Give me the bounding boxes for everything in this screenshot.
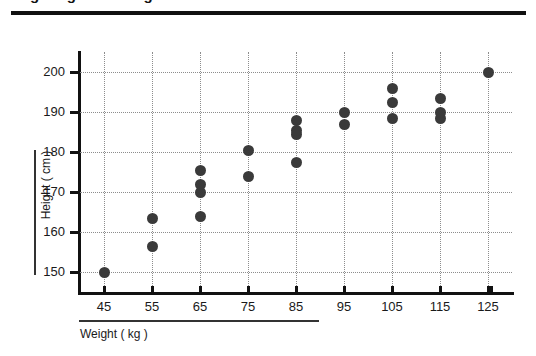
data-point	[147, 241, 158, 252]
x-axis-tick	[199, 286, 202, 295]
data-point	[387, 113, 398, 124]
data-point	[291, 115, 302, 126]
x-axis-tick-label: 115	[420, 300, 460, 313]
y-axis-tick-label: 150	[31, 265, 65, 278]
y-axis-tick-label: 200	[31, 65, 65, 78]
data-point	[243, 171, 254, 182]
data-point	[291, 125, 302, 136]
x-axis-tick	[391, 286, 394, 295]
x-axis-tick	[103, 286, 106, 295]
data-point	[435, 107, 446, 118]
y-axis-tick	[70, 151, 79, 154]
x-axis-tick	[343, 286, 346, 295]
data-point	[435, 93, 446, 104]
gridline-vertical	[152, 52, 153, 292]
y-axis-tick-label: 190	[31, 105, 65, 118]
y-axis-tick	[70, 271, 79, 274]
x-axis-tick-end	[490, 286, 493, 295]
data-point	[99, 267, 110, 278]
x-axis-tick-label: 65	[180, 300, 220, 313]
top-divider-rule	[11, 11, 526, 15]
x-axis-title-rule	[79, 320, 319, 322]
x-axis-tick-label: 55	[132, 300, 172, 313]
x-axis-tick-label: 95	[324, 300, 364, 313]
x-axis-tick-label: 125	[468, 300, 508, 313]
x-axis-tick	[151, 286, 154, 295]
data-point	[147, 213, 158, 224]
gridline-vertical	[296, 52, 297, 292]
x-axis-tick-label: 85	[276, 300, 316, 313]
x-axis-tick	[439, 286, 442, 295]
x-axis-tick	[295, 286, 298, 295]
data-point	[195, 165, 206, 176]
y-axis-title-rule	[34, 150, 36, 275]
y-axis-tick	[70, 231, 79, 234]
data-point	[387, 97, 398, 108]
x-axis-tick	[247, 286, 250, 295]
plot-area	[80, 52, 512, 292]
y-axis-tick	[70, 111, 79, 114]
y-axis-title: Height ( cm )	[39, 125, 53, 245]
gridline-vertical	[104, 52, 105, 292]
x-axis-title: Weight ( kg )	[80, 327, 148, 341]
data-point	[483, 67, 494, 78]
data-point	[339, 107, 350, 118]
data-point	[195, 211, 206, 222]
data-point	[387, 83, 398, 94]
data-point	[291, 157, 302, 168]
y-axis-tick	[70, 71, 79, 74]
gridline-vertical	[344, 52, 345, 292]
gridline-vertical	[488, 52, 489, 292]
gridline-vertical	[440, 52, 441, 292]
scatter-plot-figure: Height against Weight 150160170180190200…	[0, 0, 536, 356]
data-point	[243, 145, 254, 156]
x-axis-tick-label: 105	[372, 300, 412, 313]
x-axis-tick-label: 75	[228, 300, 268, 313]
x-axis-tick-label: 45	[84, 300, 124, 313]
data-point	[195, 179, 206, 190]
data-point	[339, 119, 350, 130]
y-axis-tick	[70, 191, 79, 194]
